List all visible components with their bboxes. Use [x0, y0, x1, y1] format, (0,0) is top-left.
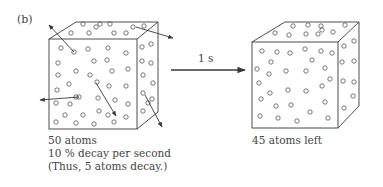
right-cube-atoms [255, 23, 356, 123]
decay-arrow-3 [40, 97, 79, 100]
left-caption-2: 10 % decay per second [48, 147, 171, 160]
time-label: 1 s [198, 52, 213, 65]
decay-arrow-1 [49, 25, 74, 52]
left-caption-1: 50 atoms [48, 134, 97, 147]
left-caption-3: (Thus, 5 atoms decay.) [48, 160, 167, 173]
decay-arrow-2 [136, 27, 173, 38]
decay-arrow-5 [145, 95, 162, 127]
left-cube-atoms [54, 22, 155, 126]
right-cube [252, 22, 359, 128]
right-caption: 45 atoms left [252, 134, 322, 147]
